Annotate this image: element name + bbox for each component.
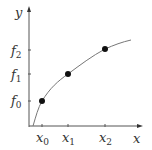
- data-point-2: [102, 46, 108, 52]
- function-curve: [33, 40, 131, 126]
- y-axis-label: y: [14, 5, 23, 20]
- x-tick-label-0: x0: [36, 130, 49, 147]
- y-tick-label-2: f2: [10, 43, 22, 60]
- function-sample-diagram: y x f2 f1 f0 x0 x1 x2: [0, 0, 152, 150]
- y-tick-label-0: f0: [10, 93, 22, 110]
- y-tick-label-1: f1: [10, 67, 22, 84]
- y-axis-arrow-icon: [27, 6, 31, 12]
- data-point-0: [39, 98, 45, 104]
- data-point-1: [65, 71, 71, 77]
- x-tick-label-2: x2: [99, 130, 112, 147]
- x-tick-label-1: x1: [62, 130, 75, 147]
- x-axis-label: x: [133, 131, 141, 146]
- x-axis-arrow-icon: [137, 124, 143, 128]
